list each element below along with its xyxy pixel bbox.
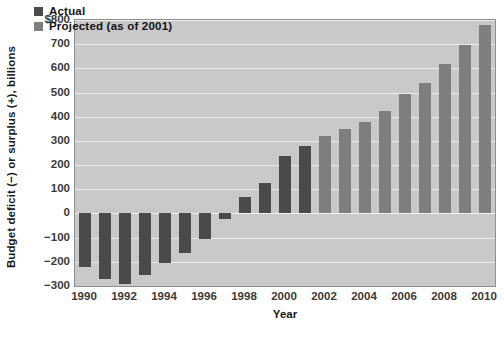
- bar: [199, 213, 211, 239]
- legend-item-projected: Projected (as of 2001): [34, 20, 172, 32]
- bar: [159, 213, 171, 262]
- gridline: [75, 68, 495, 69]
- zero-line: [75, 213, 495, 214]
- bar: [379, 111, 391, 213]
- bar: [279, 156, 291, 213]
- y-axis-tick-labels: −300−200−1000100200300400500600700$800: [18, 14, 70, 286]
- x-tick-label: 2004: [351, 290, 377, 302]
- gridline: [75, 141, 495, 142]
- y-tick-label: 700: [18, 37, 70, 49]
- bar: [79, 213, 91, 266]
- gridline: [75, 44, 495, 45]
- x-tick-label: 2010: [471, 290, 497, 302]
- x-tick-label: 1996: [191, 290, 217, 302]
- legend: Actual Projected (as of 2001): [34, 5, 172, 32]
- legend-label-projected: Projected (as of 2001): [49, 20, 172, 32]
- plot-area: [74, 19, 496, 287]
- bar: [259, 183, 271, 213]
- y-tick-label: 400: [18, 110, 70, 122]
- x-tick-label: 1998: [231, 290, 257, 302]
- bar: [439, 64, 451, 213]
- x-tick-label: 2002: [311, 290, 337, 302]
- bar: [239, 197, 251, 214]
- y-tick-label: −300: [18, 279, 70, 291]
- gridline: [75, 93, 495, 94]
- x-tick-label: 1992: [111, 290, 137, 302]
- x-axis-title: Year: [74, 308, 496, 320]
- legend-swatch-icon-actual: [34, 7, 43, 16]
- bar: [179, 213, 191, 253]
- budget-deficit-surplus-chart: Budget deficit (−) or surplus (+), billi…: [0, 0, 504, 337]
- bar: [299, 146, 311, 214]
- y-tick-label: 500: [18, 86, 70, 98]
- y-tick-label: −200: [18, 255, 70, 267]
- bar: [119, 213, 131, 283]
- bar: [339, 129, 351, 213]
- bar: [219, 213, 231, 218]
- bar: [419, 83, 431, 214]
- bar: [459, 45, 471, 214]
- y-tick-label: 0: [18, 206, 70, 218]
- y-tick-label: 100: [18, 182, 70, 194]
- legend-swatch-icon-projected: [34, 22, 43, 31]
- bar: [139, 213, 151, 275]
- x-tick-label: 2008: [431, 290, 457, 302]
- bar: [359, 122, 371, 214]
- bar: [479, 25, 491, 214]
- bar: [99, 213, 111, 278]
- x-tick-label: 2006: [391, 290, 417, 302]
- gridline: [75, 238, 495, 239]
- legend-item-actual: Actual: [34, 5, 172, 17]
- gridline: [75, 262, 495, 263]
- legend-label-actual: Actual: [49, 5, 85, 17]
- y-tick-label: 300: [18, 134, 70, 146]
- x-tick-label: 1990: [71, 290, 97, 302]
- y-tick-label: −100: [18, 231, 70, 243]
- x-tick-label: 2000: [271, 290, 297, 302]
- y-tick-label: 200: [18, 158, 70, 170]
- x-tick-label: 1994: [151, 290, 177, 302]
- gridline: [75, 117, 495, 118]
- gridline: [75, 286, 495, 287]
- y-tick-label: 600: [18, 61, 70, 73]
- x-axis-tick-labels: 1990199219941996199820002002200420062008…: [74, 290, 496, 306]
- bar: [399, 94, 411, 213]
- bar: [319, 136, 331, 213]
